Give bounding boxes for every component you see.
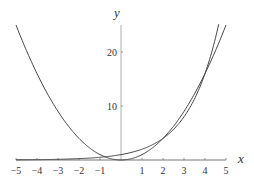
- x-tick-label: −1: [95, 165, 106, 176]
- x-tick-label: 2: [161, 165, 166, 176]
- x-tick-label: 4: [203, 165, 208, 176]
- x-tick-label: 3: [182, 165, 187, 176]
- x-axis-label: x: [237, 151, 244, 166]
- chart: −5−4−3−2−1123451020xy: [0, 0, 254, 186]
- y-axis-label: y: [112, 5, 120, 20]
- x-tick-label: −4: [32, 165, 43, 176]
- y-tick-label: 20: [107, 47, 117, 58]
- x-tick-label: −5: [11, 165, 22, 176]
- x-tick-label: −2: [74, 165, 85, 176]
- y-tick-label: 10: [107, 101, 117, 112]
- x-tick-label: 1: [140, 165, 145, 176]
- x-tick-label: 5: [224, 165, 229, 176]
- plot-area: −5−4−3−2−1123451020xy: [0, 0, 254, 186]
- x-tick-label: −3: [53, 165, 64, 176]
